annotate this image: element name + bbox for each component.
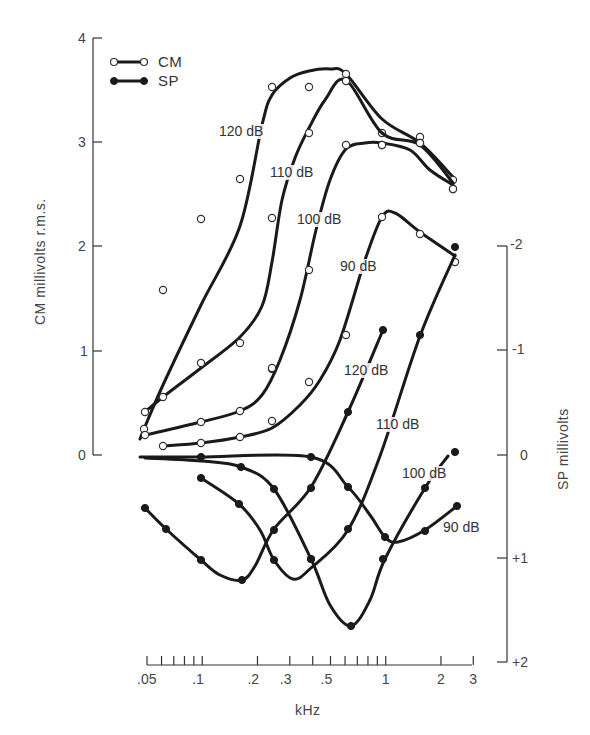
chart: 4 3 2 1 0 CM millivolts r.m.s. -2 -1 0 +… (0, 0, 590, 735)
right-tick-label: -1 (512, 341, 525, 357)
open-circle-marker-icon (449, 185, 456, 192)
open-circle-marker-icon (305, 378, 312, 385)
series-line (140, 69, 453, 439)
left-y-axis: 4 3 2 1 0 CM millivolts r.m.s. (32, 30, 102, 463)
open-circle-marker-icon (416, 139, 423, 146)
filled-circle-marker-icon (238, 576, 245, 583)
filled-circle-marker-icon (451, 243, 458, 250)
x-tick-label: .05 (137, 671, 157, 687)
filled-circle-marker-icon (307, 484, 314, 491)
x-tick-label: .2 (247, 671, 259, 687)
right-axis-title: SP millivolts (555, 408, 571, 490)
curve-label: 100 dB (402, 465, 446, 481)
plot-area: 120 dB110 dB100 dB90 dB120 dB110 dB100 d… (140, 69, 483, 630)
open-circle-marker-icon (305, 266, 312, 273)
open-circle-marker-icon (236, 339, 243, 346)
series-line (145, 79, 453, 412)
curve-label: 110 dB (270, 164, 313, 180)
left-tick-label: 3 (78, 134, 86, 150)
curve-label: 90 dB (340, 258, 377, 274)
filled-circle-marker-icon (141, 504, 148, 511)
filled-circle-marker-icon (379, 326, 386, 333)
open-circle-marker-icon (236, 407, 243, 414)
filled-circle-marker-icon (344, 483, 351, 490)
left-tick-label: 4 (78, 30, 86, 46)
filled-circle-marker-icon (344, 525, 351, 532)
filled-circle-marker-icon (344, 408, 351, 415)
open-circle-marker-icon (268, 417, 275, 424)
x-tick-label: .3 (280, 671, 292, 687)
open-circle-marker-icon (268, 83, 275, 90)
filled-circle-marker-icon (270, 556, 277, 563)
open-circle-marker-icon (268, 364, 275, 371)
open-circle-marker-icon (197, 439, 204, 446)
open-circle-marker-icon (378, 213, 385, 220)
legend-label-sp: SP (158, 72, 179, 89)
filled-circle-marker-icon (381, 533, 388, 540)
open-circle-marker-icon (305, 129, 312, 136)
filled-circle-marker-icon (111, 78, 118, 85)
filled-circle-marker-icon (453, 502, 460, 509)
open-circle-marker-icon (111, 59, 118, 66)
curve-label: 120 dB (219, 123, 263, 139)
filled-circle-marker-icon (141, 78, 148, 85)
x-axis: kHz .05.1.2.3.5123 (137, 656, 477, 718)
right-y-axis: -2 -1 0 +1 +2 SP millivolts (497, 236, 571, 670)
cm-series-120db: 120 dB (140, 69, 457, 439)
cm-series-90db: 90 dB (159, 211, 458, 450)
x-tick-label: .5 (321, 671, 333, 687)
right-tick-label: +2 (512, 654, 528, 670)
series-line (145, 142, 453, 435)
open-circle-marker-icon (342, 77, 349, 84)
right-tick-label: 0 (520, 447, 528, 463)
curve-label: 110 dB (376, 416, 419, 432)
open-circle-marker-icon (197, 418, 204, 425)
open-circle-marker-icon (305, 83, 312, 90)
right-tick-label: -2 (510, 236, 523, 252)
filled-circle-marker-icon (307, 453, 314, 460)
filled-circle-marker-icon (162, 525, 169, 532)
curve-label: 100 dB (297, 211, 341, 227)
filled-circle-marker-icon (270, 526, 277, 533)
x-tick-label: 1 (382, 671, 390, 687)
open-circle-marker-icon (197, 215, 204, 222)
x-axis-title: kHz (295, 702, 321, 718)
x-tick-label: 3 (469, 671, 477, 687)
filled-circle-marker-icon (451, 448, 458, 455)
filled-circle-marker-icon (235, 500, 242, 507)
cm-series-100db: 100 dB (141, 139, 456, 438)
open-circle-marker-icon (236, 433, 243, 440)
open-circle-marker-icon (378, 141, 385, 148)
open-circle-marker-icon (141, 408, 148, 415)
filled-circle-marker-icon (237, 463, 244, 470)
open-circle-marker-icon (342, 141, 349, 148)
open-circle-marker-icon (342, 331, 349, 338)
open-circle-marker-icon (236, 175, 243, 182)
legend-label-cm: CM (158, 53, 182, 70)
right-tick-label: +1 (512, 550, 528, 566)
filled-circle-marker-icon (421, 484, 428, 491)
open-circle-marker-icon (342, 70, 349, 77)
filled-circle-marker-icon (379, 555, 386, 562)
curve-label: 120 dB (344, 362, 388, 378)
x-tick-label: 2 (437, 671, 445, 687)
filled-circle-marker-icon (270, 485, 277, 492)
series-line (163, 211, 455, 446)
curve-label: 90 dB (443, 519, 480, 535)
filled-circle-marker-icon (347, 622, 354, 629)
open-circle-marker-icon (268, 214, 275, 221)
filled-circle-marker-icon (197, 556, 204, 563)
legend: CM SP (111, 53, 183, 89)
left-axis-title: CM millivolts r.m.s. (32, 198, 48, 325)
filled-circle-marker-icon (416, 331, 423, 338)
left-tick-label: 0 (78, 447, 86, 463)
left-tick-label: 1 (80, 343, 88, 359)
filled-circle-marker-icon (307, 555, 314, 562)
left-tick-label: 2 (78, 238, 86, 254)
x-tick-label: .1 (192, 671, 204, 687)
open-circle-marker-icon (141, 431, 148, 438)
open-circle-marker-icon (159, 286, 166, 293)
open-circle-marker-icon (416, 230, 423, 237)
open-circle-marker-icon (159, 442, 166, 449)
open-circle-marker-icon (159, 393, 166, 400)
